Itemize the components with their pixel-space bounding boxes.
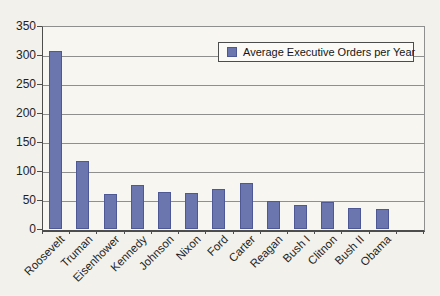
bar-kennedy <box>131 185 144 229</box>
bar-eisenhower <box>104 194 117 229</box>
x-axis-tick-mark <box>369 230 370 234</box>
bar-johnson <box>158 192 171 229</box>
y-axis-tick-mark <box>37 113 42 114</box>
executive-orders-bar-chart: Average Executive Orders per Year 050100… <box>0 0 440 296</box>
bar-clitnon <box>321 202 334 229</box>
x-axis-tick-mark <box>124 230 125 234</box>
y-axis-tick-label: 0 <box>0 222 36 236</box>
bar-truman <box>76 161 89 229</box>
y-gridline-250 <box>43 85 424 86</box>
x-axis-tick-mark <box>396 230 397 234</box>
y-axis-tick-label: 150 <box>0 135 36 149</box>
y-axis-tick-mark <box>37 142 42 143</box>
bar-roosevelt <box>49 51 62 229</box>
y-axis-tick-mark <box>37 55 42 56</box>
y-axis-tick-label: 50 <box>0 193 36 207</box>
y-gridline-150 <box>43 143 424 144</box>
legend-series-marker-icon <box>227 47 237 57</box>
y-gridline-100 <box>43 172 424 173</box>
bar-carter <box>240 183 253 229</box>
x-axis-tick-mark <box>178 230 179 234</box>
x-axis-tick-mark <box>69 230 70 234</box>
x-axis-tick-mark <box>423 230 424 234</box>
bar-obama <box>376 209 389 229</box>
x-axis-tick-mark <box>341 230 342 234</box>
x-axis-label-nixon: Nixon <box>174 233 203 262</box>
x-axis-tick-mark <box>287 230 288 234</box>
x-axis-tick-mark <box>314 230 315 234</box>
x-axis-label-roosevelt: Roosevelt <box>22 233 67 278</box>
x-axis-tick-mark <box>260 230 261 234</box>
x-axis-tick-mark <box>233 230 234 234</box>
y-gridline-200 <box>43 114 424 115</box>
x-axis-tick-mark <box>42 230 43 234</box>
y-axis-tick-mark <box>37 171 42 172</box>
legend: Average Executive Orders per Year <box>218 42 414 62</box>
bar-bush-ii <box>348 208 361 229</box>
x-axis-tick-mark <box>151 230 152 234</box>
bar-ford <box>212 189 225 229</box>
y-axis-tick-label: 100 <box>0 164 36 178</box>
y-axis-tick-mark <box>37 200 42 201</box>
bar-bush-i <box>294 205 307 229</box>
y-axis-tick-label: 350 <box>0 19 36 33</box>
x-axis-tick-mark <box>205 230 206 234</box>
y-axis-tick-mark <box>37 26 42 27</box>
y-gridline-50 <box>43 201 424 202</box>
y-axis-tick-label: 250 <box>0 77 36 91</box>
legend-series-label: Average Executive Orders per Year <box>243 46 415 58</box>
y-axis-tick-mark <box>37 84 42 85</box>
y-axis-tick-label: 300 <box>0 48 36 62</box>
bar-nixon <box>185 193 198 229</box>
x-axis-tick-mark <box>96 230 97 234</box>
bar-reagan <box>267 201 280 229</box>
x-axis-label-clitnon: Clitnon <box>305 233 339 267</box>
y-axis-tick-label: 200 <box>0 106 36 120</box>
